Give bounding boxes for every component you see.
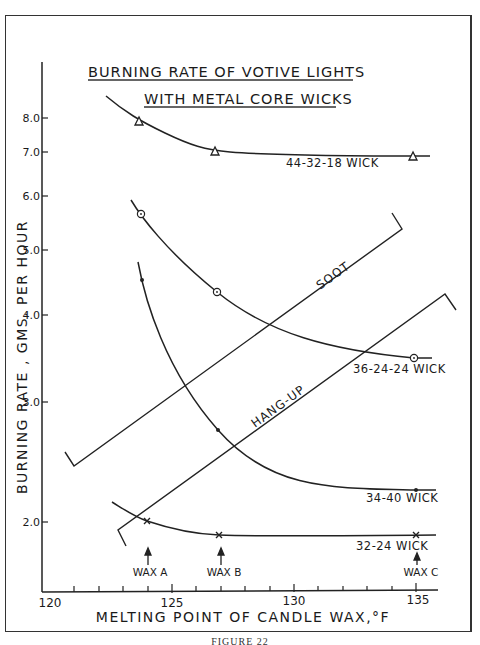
series-34-40-curve bbox=[138, 262, 436, 490]
wax-c-label: WAX C bbox=[404, 566, 439, 578]
y-axis-label: BURNING RATE , GMS. PER HOUR bbox=[14, 220, 30, 494]
series-label-44-32-18: 44-32-18 WICK bbox=[286, 156, 379, 170]
y-ticks bbox=[42, 118, 48, 522]
soot-label: SOOT bbox=[314, 259, 353, 292]
chart: 8.0 7.0 6.0 5.0 4.0 3.0 2.0 120 125 130 … bbox=[0, 0, 480, 645]
y-tick-label: 2.0 bbox=[23, 516, 41, 529]
figure-caption: FIGURE 22 bbox=[0, 636, 480, 645]
series-label-32-24: 32-24 WICK bbox=[356, 539, 428, 553]
x-tick-labels: 120 125 130 135 bbox=[39, 593, 430, 610]
x-axis-label: MELTING POINT OF CANDLE WAX,°F bbox=[96, 609, 390, 625]
x-tick-label: 135 bbox=[407, 593, 430, 607]
arrow-up-icon bbox=[218, 548, 224, 555]
series-label-36-24-24: 36-24-24 WICK bbox=[353, 362, 446, 376]
wax-b-label: WAX B bbox=[207, 566, 242, 578]
x-tick-label: 125 bbox=[161, 596, 184, 610]
x-axis bbox=[42, 590, 438, 592]
y-tick-label: 8.0 bbox=[23, 112, 41, 125]
chart-subtitle: WITH METAL CORE WICKS bbox=[144, 91, 353, 107]
hangup-label: HANG-UP bbox=[249, 382, 308, 430]
soot-boundary-line bbox=[65, 213, 402, 466]
y-tick-label: 6.0 bbox=[23, 190, 41, 203]
dot-marker bbox=[216, 428, 220, 432]
arrow-up-icon bbox=[414, 553, 420, 560]
x-tick-label: 120 bbox=[39, 596, 62, 610]
wax-labels: WAX A WAX B WAX C bbox=[133, 566, 439, 578]
chart-title: BURNING RATE OF VOTIVE LIGHTS bbox=[88, 64, 365, 80]
wax-a-label: WAX A bbox=[133, 566, 169, 578]
series-36-24-24-curve bbox=[131, 200, 432, 358]
arrow-up-icon bbox=[145, 548, 151, 555]
x-tick-label: 130 bbox=[283, 594, 306, 608]
series-36-24-24-markers bbox=[137, 210, 417, 361]
series-label-34-40: 34-40 WICK bbox=[366, 491, 438, 505]
series-32-24-curve bbox=[112, 502, 436, 536]
dot-marker bbox=[140, 278, 144, 282]
series-34-40-markers bbox=[140, 278, 418, 492]
y-tick-label: 7.0 bbox=[23, 146, 41, 159]
